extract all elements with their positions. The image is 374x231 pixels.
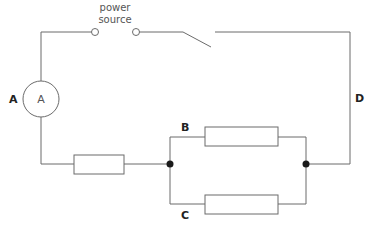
switch-blade (183, 32, 211, 47)
circuit-diagram: power source D A A B C (0, 0, 374, 231)
label-B: B (181, 121, 189, 134)
series-resistor (74, 155, 124, 174)
junction-left (167, 161, 174, 168)
label-A: A (9, 93, 18, 106)
power-terminal-right (133, 29, 140, 36)
power-terminal-left (92, 29, 99, 36)
wire-bottom-left (41, 117, 74, 164)
wire-top-left (41, 32, 92, 81)
junction-right (303, 161, 310, 168)
power-source-label-line2: source (98, 14, 131, 25)
wire-right-branch (278, 137, 306, 204)
ammeter-symbol: A (37, 93, 45, 106)
parallel-resistor-top (205, 127, 278, 146)
label-D: D (355, 92, 364, 105)
label-C: C (181, 209, 189, 222)
parallel-resistor-bottom (205, 195, 278, 214)
wire-left-branch (170, 137, 205, 204)
power-source-label-line1: power (100, 2, 132, 13)
